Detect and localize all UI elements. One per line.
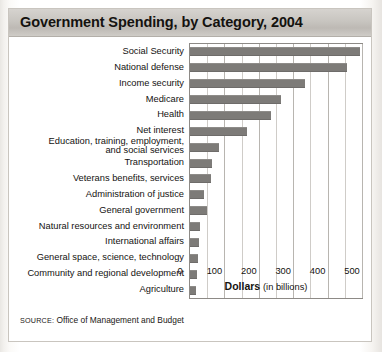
- bar: [190, 95, 281, 104]
- category-label: Natural resources and environment: [19, 218, 188, 234]
- bar-row: [190, 235, 362, 251]
- bar: [190, 174, 211, 183]
- category-label: Education, training, employment,and soci…: [19, 138, 188, 154]
- category-label: Veterans benefits, services: [19, 170, 188, 186]
- bar: [190, 47, 360, 56]
- x-axis-ticks: 0100200300400500: [179, 266, 353, 280]
- category-label-line: International affairs: [105, 236, 184, 246]
- bar-row: [190, 250, 362, 266]
- bar-row: [190, 60, 362, 76]
- chart-title-bar: Government Spending, by Category, 2004: [9, 9, 371, 37]
- category-label: Administration of justice: [19, 186, 188, 202]
- source-note: SOURCE: Office of Management and Budget: [20, 315, 184, 325]
- category-label: Agriculture: [19, 281, 188, 297]
- x-axis-title: Dollars (in billions): [179, 280, 353, 292]
- category-label: International affairs: [19, 234, 188, 250]
- category-label: Community and regional development: [19, 265, 188, 281]
- category-label-line: General space, science, technology: [37, 252, 184, 262]
- bar-row: [190, 76, 362, 92]
- bar: [190, 159, 212, 168]
- bar: [190, 254, 198, 263]
- bar-row: [190, 108, 362, 124]
- category-label-line: Net interest: [136, 125, 184, 135]
- bar: [190, 190, 204, 199]
- category-label-line: Natural resources and environment: [39, 221, 184, 231]
- bar: [190, 238, 199, 247]
- bar: [190, 206, 207, 215]
- x-tick-label: 300: [275, 266, 291, 276]
- bar-row: [190, 187, 362, 203]
- bar: [190, 63, 347, 72]
- x-tick-label: 0: [177, 266, 182, 276]
- category-label-line: Social Security: [123, 46, 185, 56]
- category-label-line: Medicare: [146, 94, 184, 104]
- category-label: Medicare: [19, 91, 188, 107]
- category-label: Income security: [19, 75, 188, 91]
- category-label-line: General government: [99, 205, 184, 215]
- category-label-line: Income security: [119, 78, 184, 88]
- x-tick-label: 100: [207, 266, 223, 276]
- chart-title: Government Spending, by Category, 2004: [20, 14, 303, 30]
- bar-row: [190, 155, 362, 171]
- category-label-line: Administration of justice: [86, 189, 184, 199]
- bar: [190, 79, 305, 88]
- category-label: General space, science, technology: [19, 249, 188, 265]
- category-label-line: Agriculture: [140, 284, 184, 294]
- bar: [190, 127, 247, 136]
- category-label-line: Community and regional development: [27, 268, 184, 278]
- bar-row: [190, 123, 362, 139]
- x-tick-label: 200: [241, 266, 257, 276]
- bar-rows: [190, 44, 362, 298]
- category-label-line: Health: [157, 109, 184, 119]
- category-label-line: Transportation: [124, 157, 184, 167]
- bar-row: [190, 203, 362, 219]
- x-tick-label: 400: [310, 266, 326, 276]
- bar-row: [190, 171, 362, 187]
- x-tick-label: 500: [344, 266, 360, 276]
- category-label-line: Veterans benefits, services: [73, 173, 184, 183]
- category-label-line: National defense: [114, 62, 184, 72]
- bar-row: [190, 139, 362, 155]
- bar-row: [190, 92, 362, 108]
- category-label: General government: [19, 202, 188, 218]
- gridline: [362, 44, 363, 298]
- source-text: Office of Management and Budget: [56, 315, 183, 325]
- category-label: National defense: [19, 59, 188, 75]
- category-label-column: Social SecurityNational defenseIncome se…: [19, 43, 188, 299]
- x-axis-title-sub: (in billions): [263, 282, 307, 292]
- bar: [190, 143, 219, 152]
- bar: [190, 111, 271, 120]
- category-label: Health: [19, 107, 188, 123]
- bar: [190, 222, 200, 231]
- bar-row: [190, 44, 362, 60]
- scanned-page: Government Spending, by Category, 2004 S…: [0, 0, 382, 352]
- x-axis-title-main: Dollars: [225, 280, 261, 292]
- source-prefix: SOURCE:: [20, 316, 54, 325]
- plot-area: [189, 43, 363, 299]
- chart-figure: Government Spending, by Category, 2004 S…: [8, 8, 372, 342]
- category-label: Social Security: [19, 43, 188, 59]
- bar-row: [190, 219, 362, 235]
- category-label: Transportation: [19, 154, 188, 170]
